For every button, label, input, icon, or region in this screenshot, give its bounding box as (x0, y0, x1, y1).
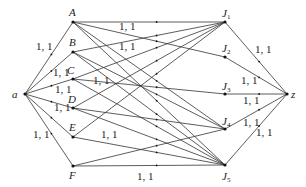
node-C (71, 77, 74, 80)
arrow-marker-icon (156, 138, 158, 140)
arrow-marker-icon (258, 61, 260, 63)
edge-B-J1 (73, 22, 225, 52)
node-D (71, 106, 74, 109)
node-J5 (223, 163, 226, 166)
arrow-marker-icon (156, 47, 158, 49)
edge-capacity-label: 1, 1 (255, 43, 272, 55)
arrow-marker-icon (156, 60, 158, 62)
arrow-marker-icon (156, 86, 158, 88)
node-label-A: A (68, 6, 76, 18)
arrow-marker-icon (51, 133, 53, 135)
node-label-E: E (68, 121, 76, 133)
edge-capacity-label: 1, 1 (256, 126, 273, 138)
node-E (71, 135, 74, 138)
edge-C-J1 (73, 22, 225, 79)
arrow-marker-icon (51, 101, 53, 103)
arrow-marker-icon (156, 165, 158, 167)
edge-capacity-label: 1, 1 (241, 74, 258, 86)
node-a (23, 92, 26, 95)
arrow-marker-icon (156, 80, 158, 82)
arrow-marker-icon (51, 85, 53, 87)
node-F (71, 164, 74, 167)
edge-capacity-label: 1, 1 (55, 83, 72, 95)
arrow-marker-icon (156, 100, 158, 102)
node-A (71, 20, 74, 23)
arrow-marker-icon (156, 73, 158, 75)
edge-capacity-label: 1, 1 (53, 66, 70, 78)
edge-D-J5 (73, 108, 225, 165)
arrow-marker-icon (156, 93, 158, 95)
node-label-J3: J3 (222, 80, 231, 94)
edge-capacity-label: 1, 1 (33, 128, 50, 140)
arrow-marker-icon (51, 54, 53, 56)
arrow-marker-icon (51, 117, 53, 119)
edge-capacity-label: 1, 1 (137, 170, 154, 182)
node-label-J1: J1 (222, 7, 231, 21)
arrow-marker-icon (156, 35, 158, 37)
edge-D-J4 (73, 108, 225, 129)
graph-svg: aABCDEFJ1J2J3J4J5z 1, 11, 11, 11, 11, 11… (0, 0, 306, 187)
edge-B-J4 (73, 52, 225, 129)
node-label-J2: J2 (222, 42, 231, 56)
node-label-a: a (12, 88, 18, 100)
arrow-marker-icon (156, 119, 158, 121)
node-B (71, 50, 74, 53)
edge-capacity-label: 1, 1 (36, 40, 53, 52)
arrow-marker-icon (156, 40, 158, 42)
node-label-J5: J5 (222, 170, 231, 184)
edge-capacity-label: 1, 1 (243, 94, 260, 106)
edge-capacity-label: 1, 1 (101, 128, 118, 140)
edge-F-J5 (73, 165, 225, 166)
arrow-marker-icon (156, 125, 158, 127)
node-label-J4: J4 (222, 115, 231, 129)
arrow-marker-icon (156, 152, 158, 154)
node-label-F: F (68, 169, 76, 181)
edge-B-J5 (73, 52, 225, 165)
arrow-marker-icon (258, 109, 260, 111)
arrow-marker-icon (258, 76, 260, 78)
node-label-z: z (290, 88, 296, 100)
flow-network-diagram: aABCDEFJ1J2J3J4J5z 1, 11, 11, 11, 11, 11… (0, 0, 306, 187)
node-label-B: B (69, 36, 76, 48)
arrow-marker-icon (156, 145, 158, 147)
edge-capacity-label: 1, 1 (119, 20, 136, 32)
edge-capacity-label: 1, 1 (93, 74, 110, 86)
arrow-marker-icon (156, 113, 158, 115)
edge-A-J5 (73, 22, 225, 165)
edge-capacity-label: 1, 1 (54, 101, 71, 113)
edge-capacity-label: 1, 1 (119, 40, 136, 52)
edge-D-J1 (73, 22, 225, 108)
node-z (285, 92, 288, 95)
arrow-marker-icon (156, 21, 158, 23)
